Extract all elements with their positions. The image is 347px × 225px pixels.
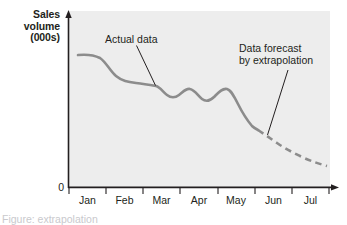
clipped-caption: Figure: extrapolation bbox=[2, 214, 202, 225]
figure-container: Sales volume (000s) 0 Jan Feb Mar Apr Ma… bbox=[0, 0, 347, 225]
annotation-actual-data: Actual data bbox=[105, 33, 195, 45]
y-axis-title: Sales volume (000s) bbox=[2, 9, 60, 44]
annotation-data-forecast: Data forecast by extrapolation bbox=[239, 42, 345, 66]
origin-label: 0 bbox=[52, 181, 64, 193]
x-tick-label-jan: Jan bbox=[71, 194, 105, 206]
x-tick-label-may: May bbox=[219, 194, 253, 206]
x-tick-label-jun: Jun bbox=[257, 194, 291, 206]
x-tick-label-apr: Apr bbox=[182, 194, 216, 206]
x-tick-label-feb: Feb bbox=[108, 194, 142, 206]
x-tick-label-mar: Mar bbox=[145, 194, 179, 206]
x-tick-label-jul: Jul bbox=[294, 194, 328, 206]
